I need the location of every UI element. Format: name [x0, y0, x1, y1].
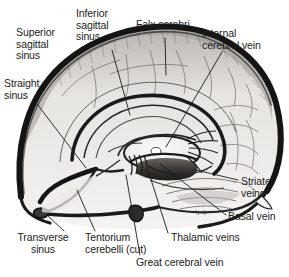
label-great-cerebral-vein: Great cerebral vein — [136, 257, 223, 269]
label-transverse-sinus: Transverse sinus — [6, 232, 80, 255]
label-internal-cerebral-vein: Internal cerebral vein — [202, 28, 261, 51]
label-thalamic-veins: Thalamic veins — [171, 232, 240, 244]
label-straight-sinus: Straight sinus — [4, 78, 39, 101]
tentorial-attachment-knob — [129, 205, 143, 221]
label-inferior-sagittal-sinus: Inferior sagittal sinus — [76, 8, 108, 43]
label-falx-cerebri: Falx cerebri — [136, 19, 190, 31]
label-basal-vein: Basal vein — [228, 211, 275, 223]
label-tentorium-cerebelli-cut: Tentorium cerebelli (cut) — [85, 232, 147, 255]
label-superior-sagittal-sinus: Superior sagittal sinus — [16, 27, 55, 62]
label-striate-veins: Striate veins — [241, 176, 271, 199]
